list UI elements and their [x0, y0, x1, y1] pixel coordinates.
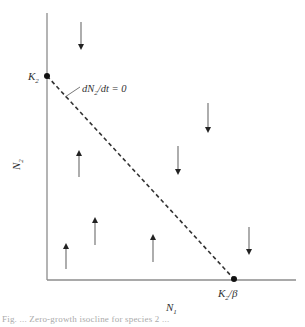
arrowhead-icon	[205, 127, 211, 133]
arrowhead-icon	[63, 243, 69, 249]
arrowhead-icon	[76, 150, 82, 156]
arrowhead-icon	[175, 169, 181, 175]
phase-plane-diagram: K2 dN2/dt = 0 K2/β N1 N2	[0, 0, 305, 327]
k2-point	[44, 73, 50, 79]
isocline-line	[47, 76, 234, 279]
figure-caption: Fig. ... Zero-growth isocline for specie…	[2, 314, 302, 326]
y-axis-label: N2	[10, 159, 25, 171]
trajectory-arrows	[63, 22, 252, 269]
k2-over-beta-label: K2/β	[217, 287, 238, 302]
arrowhead-icon	[78, 44, 84, 50]
isocline-label: dN2/dt = 0	[82, 83, 127, 97]
arrowhead-icon	[92, 217, 98, 223]
arrowhead-icon	[246, 249, 252, 255]
k2-label: K2	[27, 70, 39, 85]
k2-over-beta-point	[231, 276, 237, 282]
isocline-label-leader	[65, 87, 80, 97]
arrowhead-icon	[150, 234, 156, 240]
